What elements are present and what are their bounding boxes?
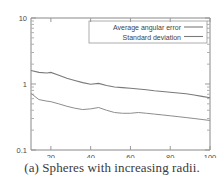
series-line-1: [31, 71, 210, 98]
legend-label-2: Standard deviation: [123, 34, 181, 41]
chart-series: [31, 71, 210, 121]
y-tick-label: 10: [19, 14, 27, 23]
y-tick-label: 1: [23, 80, 27, 89]
chart-tick-labels: 0.111020406080100: [17, 14, 217, 158]
y-tick-label: 0.1: [17, 146, 27, 155]
x-tick-label: 80: [166, 153, 174, 158]
chart-axes: [31, 18, 210, 150]
series-line-2: [31, 93, 210, 120]
figure-caption: (a) Spheres with increasing radii.: [0, 160, 224, 176]
chart-plot-area: 0.111020406080100 Average angular errorS…: [0, 0, 224, 158]
chart-legend: Average angular errorStandard deviation: [89, 21, 207, 43]
line-chart: 0.111020406080100 Average angular errorS…: [0, 0, 224, 158]
x-tick-label: 20: [47, 153, 55, 158]
legend-label-1: Average angular error: [113, 24, 182, 32]
x-tick-label: 40: [86, 153, 94, 158]
x-tick-label: 60: [126, 153, 134, 158]
figure-container: 0.111020406080100 Average angular errorS…: [0, 0, 224, 189]
x-tick-label: 100: [204, 153, 217, 158]
